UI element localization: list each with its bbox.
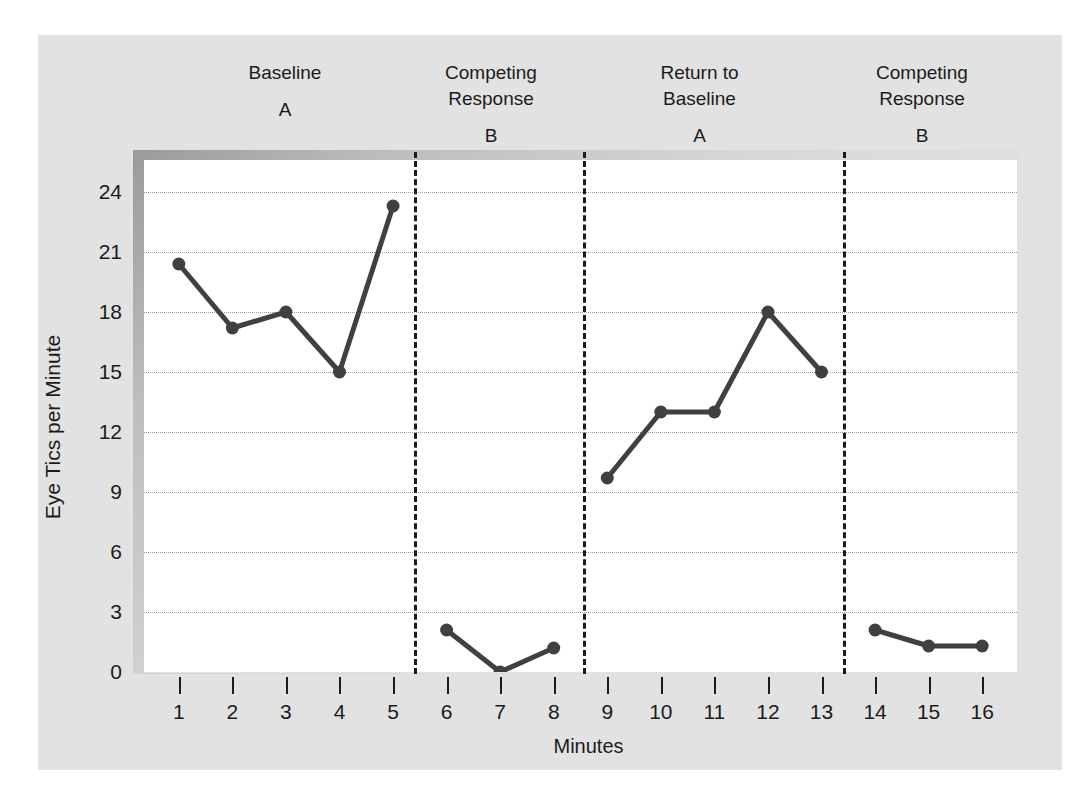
data-point-marker — [440, 624, 453, 637]
y-tick-label: 21 — [68, 240, 122, 264]
data-point-marker — [601, 472, 614, 485]
data-point-marker — [708, 406, 721, 419]
data-point-marker — [815, 366, 828, 379]
phase-header-competing-response-b1: Competing Response B — [408, 60, 574, 149]
x-tick-label: 5 — [370, 700, 416, 724]
x-tick-label: 6 — [424, 700, 470, 724]
y-tick-label: 24 — [68, 180, 122, 204]
data-point-marker — [654, 406, 667, 419]
x-tick-mark — [554, 677, 556, 694]
x-tick-mark — [339, 677, 341, 694]
y-tick-label: 6 — [68, 540, 122, 564]
phase-header-return-to-baseline-a: Return to Baseline A — [574, 60, 825, 149]
x-tick-mark — [179, 677, 181, 694]
data-point-marker — [922, 640, 935, 653]
data-point-marker — [387, 200, 400, 213]
x-tick-label: 11 — [691, 700, 737, 724]
x-tick-label: 16 — [959, 700, 1005, 724]
data-series-layer — [144, 160, 1017, 672]
x-tick-mark — [232, 677, 234, 694]
phase-name: Baseline — [160, 60, 410, 86]
x-tick-label: 14 — [852, 700, 898, 724]
phase-letter: B — [826, 123, 1018, 149]
data-point-marker — [333, 366, 346, 379]
x-tick-label: 10 — [638, 700, 684, 724]
x-tick-mark — [982, 677, 984, 694]
x-tick-label: 12 — [745, 700, 791, 724]
y-tick-label: 9 — [68, 480, 122, 504]
x-tick-label: 7 — [477, 700, 523, 724]
x-tick-mark — [929, 677, 931, 694]
x-tick-mark — [714, 677, 716, 694]
x-tick-label: 2 — [209, 700, 255, 724]
x-tick-label: 1 — [156, 700, 202, 724]
x-tick-mark — [822, 677, 824, 694]
x-tick-mark — [500, 677, 502, 694]
x-tick-mark — [661, 677, 663, 694]
x-tick-mark — [447, 677, 449, 694]
x-tick-label: 8 — [531, 700, 577, 724]
data-point-marker — [976, 640, 989, 653]
data-point-marker — [226, 322, 239, 335]
data-line-segment — [179, 206, 393, 372]
y-tick-label: 12 — [68, 420, 122, 444]
data-point-marker — [172, 258, 185, 271]
x-tick-mark — [286, 677, 288, 694]
chart-figure: Baseline A Competing Response B Return t… — [0, 0, 1087, 812]
x-tick-mark — [875, 677, 877, 694]
x-tick-mark — [607, 677, 609, 694]
x-tick-label: 13 — [799, 700, 845, 724]
y-axis-title: Eye Tics per Minute — [41, 282, 65, 572]
phase-header-baseline-a: Baseline A — [160, 60, 410, 123]
y-tick-label: 0 — [68, 660, 122, 684]
x-tick-label: 3 — [263, 700, 309, 724]
data-line-segment — [607, 312, 821, 478]
x-tick-label: 15 — [906, 700, 952, 724]
phase-letter: A — [160, 97, 410, 123]
x-axis-title: Minutes — [0, 735, 1087, 758]
phase-letter: B — [408, 123, 574, 149]
data-point-marker — [761, 306, 774, 319]
y-tick-label: 18 — [68, 300, 122, 324]
phase-letter: A — [574, 123, 825, 149]
data-point-marker — [279, 306, 292, 319]
phase-name: Competing Response — [408, 60, 574, 112]
y-tick-label: 3 — [68, 600, 122, 624]
y-tick-label: 15 — [68, 360, 122, 384]
data-point-marker — [547, 642, 560, 655]
phase-header-competing-response-b2: Competing Response B — [826, 60, 1018, 149]
phase-name: Return to Baseline — [574, 60, 825, 112]
x-axis-title-text: Minutes — [553, 735, 623, 757]
x-tick-label: 4 — [316, 700, 362, 724]
x-axis-line — [144, 672, 1017, 673]
x-tick-label: 9 — [584, 700, 630, 724]
data-point-marker — [869, 624, 882, 637]
x-tick-mark — [768, 677, 770, 694]
x-tick-mark — [393, 677, 395, 694]
phase-name: Competing Response — [826, 60, 1018, 112]
